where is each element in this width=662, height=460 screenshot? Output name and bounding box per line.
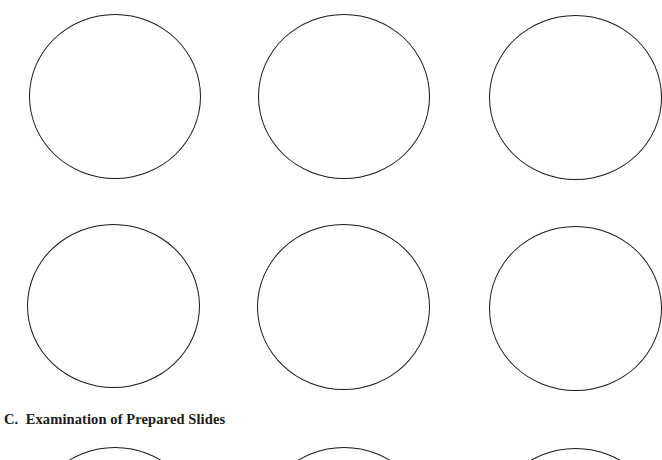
drawing-circle-r3c2 — [258, 447, 430, 460]
drawing-circle-r1c2 — [258, 14, 430, 179]
drawing-circle-r3c3 — [489, 448, 662, 460]
worksheet-page: C. Examination of Prepared Slides — [0, 0, 662, 460]
drawing-circle-r2c2 — [257, 224, 430, 390]
section-heading: C. Examination of Prepared Slides — [4, 411, 225, 428]
drawing-circle-r2c1 — [27, 224, 200, 388]
drawing-circle-r1c1 — [29, 14, 201, 179]
drawing-circle-r2c3 — [489, 226, 662, 391]
drawing-circle-r1c3 — [489, 15, 662, 180]
drawing-circle-r3c1 — [29, 447, 201, 460]
